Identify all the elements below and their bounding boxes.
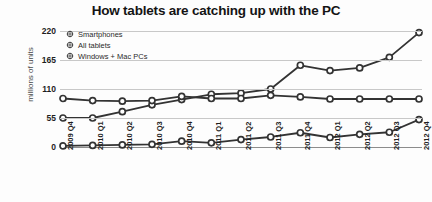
x-axis-tick-label: 2012 Q2 xyxy=(363,102,372,150)
x-axis-tick-label: 2011 Q4 xyxy=(303,102,312,150)
data-point-marker[interactable] xyxy=(268,134,274,140)
x-axis-tick-label: 2011 Q3 xyxy=(274,102,283,150)
data-point-marker[interactable] xyxy=(90,142,96,148)
x-axis-tick-label: 2011 Q1 xyxy=(214,102,223,150)
data-point-marker[interactable] xyxy=(208,95,214,101)
x-axis-tick-label: 2010 Q4 xyxy=(185,102,194,150)
data-point-marker[interactable] xyxy=(238,95,244,101)
gridline xyxy=(60,89,422,90)
chart-container: How tablets are catching up with the PC … xyxy=(0,0,432,202)
y-axis-title: millions of units xyxy=(26,37,35,113)
legend-label: Smartphones xyxy=(78,30,123,39)
data-point-marker[interactable] xyxy=(357,65,363,71)
y-axis-tick-label: 0 xyxy=(20,143,56,152)
x-axis-tick-label: 2012 Q4 xyxy=(422,102,431,150)
x-axis-tick-label: 2009 Q4 xyxy=(66,102,75,150)
legend-marker-icon xyxy=(66,41,74,49)
x-axis-tick-label: 2010 Q3 xyxy=(155,102,164,150)
legend-item-smartphones[interactable]: Smartphones xyxy=(66,29,206,39)
data-point-marker[interactable] xyxy=(297,94,303,100)
legend-marker-icon xyxy=(66,52,74,60)
legend-label: Windows + Mac PCs xyxy=(78,52,147,61)
data-point-marker[interactable] xyxy=(179,93,185,99)
x-axis-tick-label: 2012 Q1 xyxy=(333,102,342,150)
legend-item-windows-mac-pcs[interactable]: Windows + Mac PCs xyxy=(66,51,206,61)
data-point-marker[interactable] xyxy=(357,131,363,137)
y-axis-tick-label: 220 xyxy=(20,27,56,36)
y-axis-tick-label: 110 xyxy=(20,85,56,94)
data-point-marker[interactable] xyxy=(60,95,66,101)
y-axis-tick-label: 55 xyxy=(20,114,56,123)
legend-label: All tablets xyxy=(78,41,111,50)
data-point-marker[interactable] xyxy=(297,62,303,68)
data-point-marker[interactable] xyxy=(90,98,96,104)
data-point-marker[interactable] xyxy=(357,96,363,102)
data-point-marker[interactable] xyxy=(268,92,274,98)
legend-item-all-tablets[interactable]: All tablets xyxy=(66,40,206,50)
x-axis-tick-label: 2012 Q3 xyxy=(392,102,401,150)
data-point-marker[interactable] xyxy=(327,68,333,74)
x-axis-tick-label: 2010 Q1 xyxy=(96,102,105,150)
y-axis: millions of units 055110165220 xyxy=(14,0,56,202)
y-axis-tick-label: 165 xyxy=(20,56,56,65)
data-point-marker[interactable] xyxy=(179,138,185,144)
chart-legend: Smartphones All tablets Windows + Mac PC… xyxy=(66,29,206,62)
legend-marker-icon xyxy=(66,30,74,38)
x-axis-tick-label: 2011 Q2 xyxy=(244,102,253,150)
x-axis-tick-label: 2010 Q2 xyxy=(125,102,134,150)
chart-title: How tablets are catching up with the PC xyxy=(0,3,432,18)
